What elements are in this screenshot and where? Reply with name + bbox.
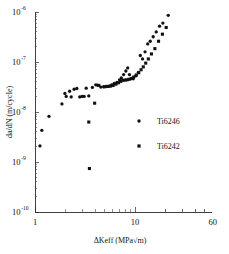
x-tick-label: 1 [33,217,37,227]
y-axis-title: da/dN (m/cycle) [5,86,14,139]
data-point [158,25,161,28]
y-tick-label: 10 [12,157,21,167]
data-point [152,35,155,38]
data-point [122,73,125,76]
data-point [147,57,150,60]
data-point [38,144,41,147]
y-tick-label-exponent: -6 [21,5,26,11]
legend-label-ti6242: Ti6242 [157,142,180,151]
figure-container: 10-610-710-810-910-1011060 Ti6246Ti6242 … [0,0,229,254]
y-tick-label-exponent: -9 [21,155,26,161]
data-point [88,167,91,170]
data-point [146,42,149,45]
data-point [47,115,50,118]
data-point [70,95,73,98]
data-point [124,69,127,72]
data-point [93,102,96,105]
data-point [167,14,170,17]
data-point [149,40,152,43]
data-point [82,95,85,98]
scatter-plot: 10-610-710-810-910-1011060 Ti6246Ti6242 … [0,0,229,254]
x-tick-label: 60 [209,217,218,227]
series-ti6246 [38,14,170,148]
data-point [155,30,158,33]
data-point [142,65,145,68]
data-point [161,33,164,36]
y-tick-label: 10 [12,7,21,17]
data-point [165,26,168,29]
data-point [75,87,78,90]
data-point [60,102,63,105]
data-point [85,86,88,89]
data-point [68,90,71,93]
axis-titles-layer: da/dN (m/cycle)ΔKeff (MPa√m) [5,86,147,245]
data-point [65,95,68,98]
data-point [91,86,94,89]
legend-marker-ti6246 [137,119,140,122]
data-point [87,120,90,123]
y-tick-label-exponent: -7 [21,55,26,61]
data-point [143,50,146,53]
data-point [106,85,109,88]
y-tick-label: 10 [12,57,21,67]
data-point [97,84,100,87]
x-axis-title: ΔKeff (MPa√m) [94,236,147,245]
data-point [126,66,129,69]
y-tick-label-exponent: -10 [21,205,29,211]
data-points-layer [38,14,170,170]
ticks-layer [35,12,205,212]
data-point [144,62,147,65]
data-point [112,84,115,87]
data-point [157,40,160,43]
data-point [161,21,164,24]
y-tick-label: 10 [12,207,21,217]
axes-layer [35,12,212,212]
data-point [153,47,156,50]
data-point [150,52,153,55]
legend-marker-ti6242 [137,144,140,147]
legend-label-ti6246: Ti6246 [157,117,180,126]
legend-layer: Ti6246Ti6242 [137,117,180,151]
x-tick-label: 10 [131,217,140,227]
data-point [103,85,106,88]
data-point [63,92,66,95]
data-point [137,71,140,74]
tick-labels-layer: 10-610-710-810-910-1011060 [12,5,217,226]
y-tick-label-exponent: -8 [21,105,26,111]
data-point [87,94,90,97]
data-point [128,73,131,76]
data-point [139,54,142,57]
series-ti6242 [87,26,167,170]
data-point [141,57,144,60]
data-point [40,129,43,132]
data-point [140,68,143,71]
